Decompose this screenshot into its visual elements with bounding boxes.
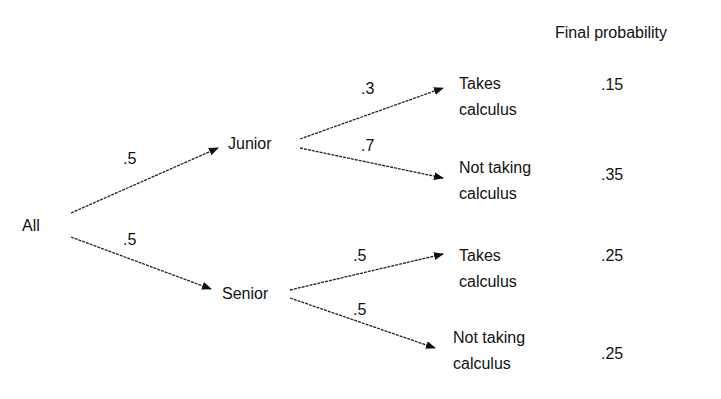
edge-prob-junior: .5 xyxy=(123,150,136,168)
edge-all-junior xyxy=(71,148,218,213)
edge-all-senior xyxy=(71,237,211,289)
tree-edges xyxy=(0,0,721,399)
leaf-line1: Takes xyxy=(459,71,517,97)
root-node: All xyxy=(22,217,40,235)
leaf-junior-takes: Takes calculus xyxy=(459,71,517,123)
edge-prob-senior: .5 xyxy=(123,231,136,249)
leaf-line2: calculus xyxy=(459,181,531,207)
final-probability-header: Final probability xyxy=(555,24,667,42)
leaf-senior-takes: Takes calculus xyxy=(459,243,517,295)
leaf-line2: calculus xyxy=(459,269,517,295)
leaf-line1: Takes xyxy=(459,243,517,269)
edge-senior-takes xyxy=(290,254,443,290)
leaf-junior-not: Not taking calculus xyxy=(459,155,531,207)
edge-prob-senior-takes: .5 xyxy=(353,247,366,265)
node-junior: Junior xyxy=(228,135,272,153)
final-prob-senior-not: .25 xyxy=(601,345,623,363)
leaf-line1: Not taking xyxy=(459,155,531,181)
final-prob-junior-takes: .15 xyxy=(601,76,623,94)
edge-prob-junior-not: .7 xyxy=(361,137,374,155)
leaf-line2: calculus xyxy=(453,351,525,377)
final-prob-junior-not: .35 xyxy=(601,166,623,184)
leaf-senior-not: Not taking calculus xyxy=(453,325,525,377)
leaf-line1: Not taking xyxy=(453,325,525,351)
edge-prob-senior-not: .5 xyxy=(353,301,366,319)
node-senior: Senior xyxy=(222,285,268,303)
leaf-line2: calculus xyxy=(459,97,517,123)
final-prob-senior-takes: .25 xyxy=(601,247,623,265)
edge-prob-junior-takes: .3 xyxy=(361,80,374,98)
